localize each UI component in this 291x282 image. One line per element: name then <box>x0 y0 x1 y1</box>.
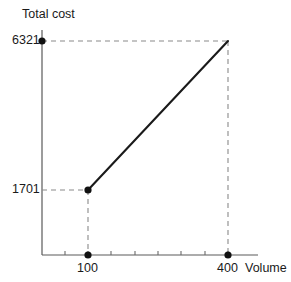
y-axis-title: Total cost <box>22 8 75 21</box>
cost-volume-chart: Total cost 6321 1701 100 400 Volume <box>0 0 291 282</box>
marker-x-100 <box>84 251 91 258</box>
x-tick-label-100: 100 <box>77 262 98 275</box>
chart-canvas <box>0 0 291 282</box>
y-tick-label-1701: 1701 <box>12 183 40 196</box>
x-tick-label-400: 400 <box>217 262 238 275</box>
marker-point-100 <box>84 186 91 193</box>
marker-x-400 <box>224 251 231 258</box>
cost-line-series <box>88 41 228 190</box>
y-tick-label-6321: 6321 <box>12 34 40 47</box>
x-axis-title: Volume <box>245 262 287 275</box>
